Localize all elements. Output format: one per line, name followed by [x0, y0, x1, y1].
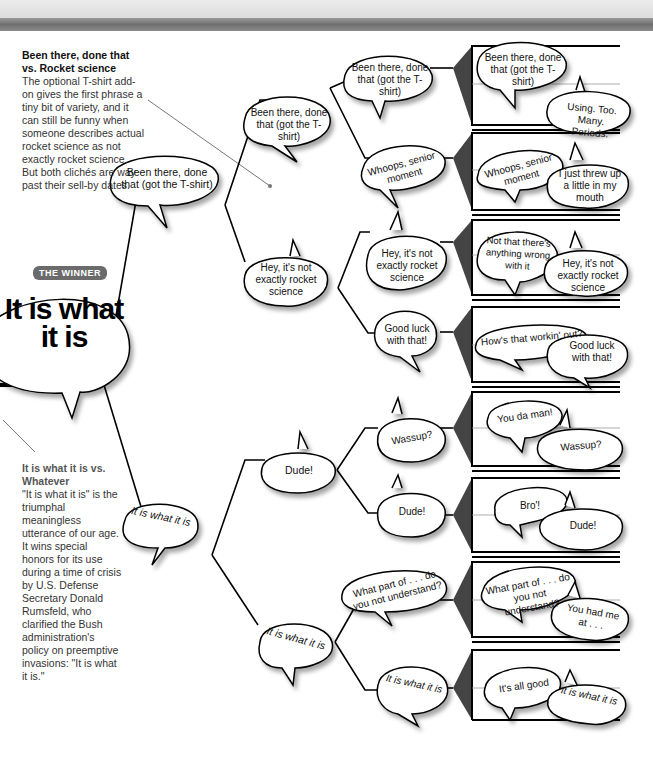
matchup-3-a: Not that there's anything wrong with it: [479, 234, 557, 274]
round1-bubble-4: Good luck with that!: [382, 323, 432, 347]
note-bottom-body: "It is what it is" is the triumphal mean…: [22, 488, 121, 682]
matchup-3-b: Hey, it's not exactly rocket science: [553, 258, 623, 294]
winner-badge: THE WINNER: [33, 266, 107, 280]
matchup-1-b: Using. Too. Many. Periods.: [559, 100, 624, 141]
round1-bubble-1: Been there, done that (got the T-shirt): [350, 62, 430, 98]
round2-bubble-3: Dude!: [265, 464, 333, 476]
matchup-6-b: Dude!: [550, 520, 616, 532]
round1-bubble-3: Hey, it's not exactly rocket science: [372, 248, 442, 284]
note-bottom-title: It is what it is vs. Whatever: [22, 462, 122, 488]
round3-bubble-1: Been there, done that (got the T-shirt): [117, 166, 217, 190]
note-bottom: It is what it is vs. Whatever "It is wha…: [22, 462, 122, 683]
round1-bubble-6: Dude!: [382, 506, 442, 518]
matchup-2-b: I just threw up a little in my mouth: [555, 168, 625, 204]
matchup-6-a: Bro'!: [510, 500, 550, 512]
winner-phrase: It is what it is: [0, 295, 128, 351]
round2-bubble-1: Been there, done that (got the T-shirt): [250, 107, 328, 143]
matchup-4-b: Good luck with that!: [562, 340, 622, 364]
note-top-title: Been there, done that vs. Rocket science: [22, 49, 144, 75]
round2-bubble-2: Hey, it's not exactly rocket science: [250, 262, 322, 298]
matchup-1-a: Been there, done that (got the T-shirt): [482, 52, 564, 88]
